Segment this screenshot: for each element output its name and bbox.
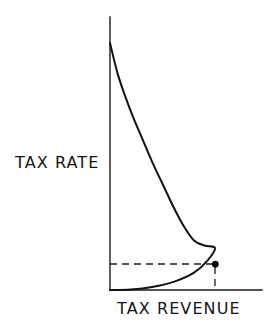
x-axis-label: TAX REVENUE bbox=[117, 299, 241, 318]
laffer-curve-path bbox=[110, 43, 215, 290]
y-axis-label: TAX RATE bbox=[15, 153, 99, 172]
laffer-curve-figure: TAX RATE TAX REVENUE bbox=[0, 0, 277, 329]
revenue-maximizing-point-dot bbox=[212, 261, 218, 267]
